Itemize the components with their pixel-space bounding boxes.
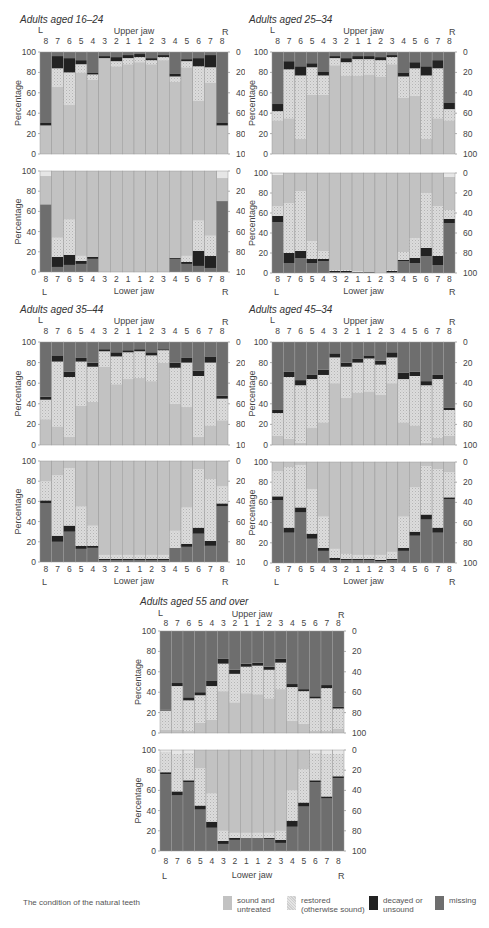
y-axis-label: Percentage [13,80,23,126]
y-tick-left: 40 [27,227,37,237]
y-tick-left: 40 [147,687,157,697]
tooth-number: 4 [401,36,406,46]
tooth-number: 5 [301,856,306,866]
tooth-number: 8 [275,36,280,46]
y-tick-left: 40 [147,806,157,816]
y-tick-left: 60 [27,88,37,98]
y-axis-label: Percentage [247,80,257,126]
tooth-number: 1 [138,274,143,284]
tooth-number: 5 [301,618,306,628]
lower-jaw-label: Lower jaw [232,870,273,880]
y-tick-left: 40 [27,517,37,527]
y-axis-label: Percentage [13,488,23,534]
tooth-number: 2 [149,36,154,46]
tooth-number: 4 [91,274,96,284]
tooth-number: 3 [390,274,395,284]
tooth-number: 4 [91,326,96,336]
tooth-number: 8 [44,326,49,336]
y-tick-right: 0 [463,47,468,57]
y-tick-left: 80 [27,67,37,77]
tooth-number: 1 [138,36,143,46]
tooth-number: 6 [186,856,191,866]
tooth-number: 4 [321,326,326,336]
tooth-number: 2 [114,326,119,336]
tooth-number: 8 [220,564,225,574]
tooth-number: 1 [138,326,143,336]
tooth-number: 8 [336,618,341,628]
tooth-number: 3 [333,274,338,284]
tooth-number: 2 [114,274,119,284]
left-label: L [162,871,167,881]
legend-label: (otherwise sound) [301,905,365,914]
left-label: L [38,25,43,35]
y-tick-left: 100 [22,166,36,176]
tooth-number: 4 [321,36,326,46]
tooth-number: 1 [355,36,360,46]
tooth-number: 4 [91,564,96,574]
y-tick-right: 40 [352,785,362,795]
tooth-number: 1 [126,326,131,336]
tooth-number: 6 [186,618,191,628]
panel-title: Adults aged 35–44 [20,304,103,315]
y-tick-left: 0 [31,557,36,567]
tooth-number: 6 [298,326,303,336]
y-tick-left: 80 [259,358,269,368]
upper-jaw-label: Upper jaw [343,316,384,326]
tooth-number: 5 [79,326,84,336]
y-tick-left: 20 [259,538,269,548]
tooth-number: 6 [67,36,72,46]
y-tick-left: 0 [263,558,268,568]
y-tick-left: 100 [22,456,36,466]
y-tick-left: 40 [259,108,269,118]
tooth-number: 5 [185,274,190,284]
tooth-number: 6 [196,274,201,284]
tooth-number: 8 [44,274,49,284]
tooth-number: 4 [290,856,295,866]
tooth-number: 6 [424,274,429,284]
y-tick-right: 60 [463,228,473,238]
tooth-number: 6 [196,564,201,574]
tooth-number: 5 [198,618,203,628]
tooth-number: 1 [126,564,131,574]
tooth-number: 7 [208,326,213,336]
y-tick-right: 40 [463,378,473,388]
tooth-number: 5 [310,326,315,336]
tooth-number: 1 [355,274,360,284]
tooth-number: 2 [378,564,383,574]
panel-title: Adults aged 55 and over [140,596,248,607]
tooth-number: 7 [287,274,292,284]
tooth-number: 8 [44,36,49,46]
tooth-number: 7 [175,618,180,628]
tooth-number: 8 [447,274,452,284]
y-tick-left: 40 [27,108,37,118]
y-tick-left: 60 [259,497,269,507]
tooth-number: 8 [275,326,280,336]
tooth-number: 7 [287,36,292,46]
tooth-number: 1 [244,856,249,866]
tooth-number: 1 [126,36,131,46]
y-tick-left: 80 [259,477,269,487]
y-tick-left: 80 [27,186,37,196]
y-tick-right: 0 [236,337,241,347]
tooth-number: 1 [355,564,360,574]
y-tick-right: 100 [463,440,477,450]
tooth-number: 5 [185,326,190,336]
y-tick-left: 40 [259,518,269,528]
y-tick-right: 20 [352,646,362,656]
legend-label: sound and [237,896,274,905]
y-tick-right: 20 [352,765,362,775]
y-tick-right: 40 [463,497,473,507]
legend-label: unsound [383,905,414,914]
tooth-number: 1 [367,36,372,46]
y-tick-left: 20 [259,248,269,258]
tooth-number: 5 [185,36,190,46]
tooth-number: 5 [310,274,315,284]
y-tick-left: 100 [254,457,268,467]
y-tick-left: 100 [22,47,36,57]
tooth-number: 3 [102,36,107,46]
y-tick-left: 0 [263,149,268,159]
y-tick-left: 20 [27,129,37,139]
legend-item-missing: missing [435,896,476,910]
y-tick-left: 80 [147,765,157,775]
y-tick-left: 100 [142,626,156,636]
